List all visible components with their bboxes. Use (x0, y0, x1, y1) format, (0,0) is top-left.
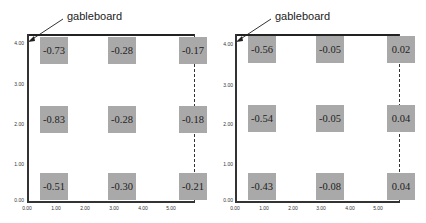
value-cell: -0.21 (179, 173, 207, 200)
value-cell: -0.83 (40, 106, 68, 133)
value-cell: -0.30 (108, 173, 136, 200)
y-axis (27, 34, 29, 202)
x-tick-label: 4.00 (133, 205, 153, 211)
y-tick-label: 0.00 (4, 197, 24, 203)
value-cell: -0.05 (316, 36, 344, 63)
x-tick-label: 0.00 (17, 205, 37, 211)
y-tick-label: 1.00 (4, 161, 24, 167)
y-tick-label: 3.00 (213, 82, 233, 88)
x-tick-label: 0.00 (225, 205, 245, 211)
x-axis (27, 201, 195, 203)
top-boundary-line (27, 34, 195, 36)
y-tick-label: 2.00 (4, 121, 24, 127)
value-cell: -0.28 (108, 37, 136, 64)
value-cell: -0.08 (316, 173, 344, 200)
value-cell: 0.04 (387, 105, 415, 132)
x-tick-label: 1.00 (254, 205, 274, 211)
x-tick-label: 4.00 (340, 205, 360, 211)
value-cell: -0.54 (248, 105, 276, 132)
value-cell: -0.17 (179, 37, 207, 64)
value-cell: -0.73 (40, 37, 68, 64)
x-axis (235, 201, 400, 203)
value-cell: -0.56 (248, 36, 276, 63)
y-tick-label: 4.00 (4, 40, 24, 46)
value-cell: -0.05 (316, 105, 344, 132)
y-axis (235, 34, 237, 202)
x-tick-label: 1.00 (46, 205, 66, 211)
left-panel: gableboard 4.00 3.00 2.00 1.00 0.00 0.00… (0, 0, 213, 223)
x-tick-label: 5.00 (161, 205, 181, 211)
y-tick-label: 2.00 (213, 121, 233, 127)
value-cell: 0.02 (387, 36, 415, 63)
y-tick-label: 3.00 (4, 81, 24, 87)
value-cell: -0.43 (248, 173, 276, 200)
value-cell: -0.28 (108, 106, 136, 133)
value-cell: 0.04 (387, 173, 415, 200)
x-tick-label: 3.00 (104, 205, 124, 211)
x-tick-label: 3.00 (311, 205, 331, 211)
value-cell: -0.51 (40, 173, 68, 200)
right-panel: gableboard 4.00 3.00 2.00 1.00 0.00 0.00… (213, 0, 426, 223)
x-tick-label: 2.00 (283, 205, 303, 211)
x-tick-label: 2.00 (75, 205, 95, 211)
y-tick-label: 1.00 (213, 161, 233, 167)
x-tick-label: 5.00 (368, 205, 388, 211)
y-tick-label: 0.00 (213, 197, 233, 203)
value-cell: -0.18 (179, 106, 207, 133)
y-tick-label: 4.00 (213, 41, 233, 47)
